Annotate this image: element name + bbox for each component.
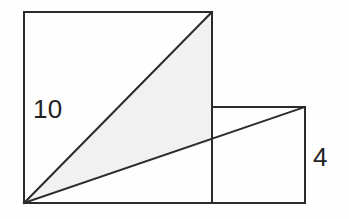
square-side-label: 10 [33, 94, 62, 124]
geometry-figure-container: 10 4 [0, 0, 349, 219]
geometry-figure-svg: 10 4 [0, 0, 349, 219]
rectangle-side-label: 4 [313, 142, 328, 172]
